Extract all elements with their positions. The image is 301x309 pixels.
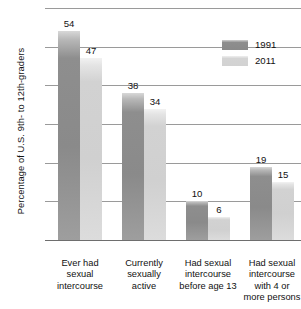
bar-fill	[122, 93, 144, 240]
x-category-label-3: Had sexual intercourse with 4 or more pe…	[237, 258, 301, 304]
bar-2011-before-age-13: 6	[208, 217, 230, 240]
bar-1991-ever-had-sexual-intercourse: 54	[58, 31, 80, 240]
legend-label-1991: 1991	[255, 39, 276, 50]
bar-2011-ever-had-sexual-intercourse: 47	[80, 58, 102, 240]
bar-chart: Percentage of U.S. 9th- to 12th-graders …	[0, 0, 301, 309]
cat-line: more persons	[237, 292, 301, 303]
cat-line: sexual	[47, 269, 113, 280]
cat-line: Had sexual	[173, 258, 243, 269]
cat-line: active	[111, 281, 177, 292]
cat-line: intercourse	[237, 269, 301, 280]
y-axis-title: Percentage of U.S. 9th- to 12th-graders	[16, 26, 26, 236]
bar-value-label: 38	[128, 80, 139, 91]
bar-1991-four-or-more-persons: 19	[250, 167, 272, 241]
legend-swatch-2011	[222, 56, 248, 66]
bar-value-label: 19	[256, 154, 267, 165]
bar-fill	[272, 182, 294, 240]
legend-item-2011: 2011	[222, 54, 292, 67]
bar-2011-four-or-more-persons: 15	[272, 182, 294, 240]
legend-label-2011: 2011	[255, 55, 276, 66]
x-category-label-0: Ever had sexual intercourse	[47, 258, 113, 292]
bar-fill	[208, 217, 230, 240]
gridline-60	[45, 8, 301, 9]
cat-line: Currently	[111, 258, 177, 269]
cat-line: Had sexual	[237, 258, 301, 269]
legend: 1991 2011	[222, 38, 292, 70]
bar-value-label: 10	[192, 188, 203, 199]
cat-line: with 4 or	[237, 281, 301, 292]
gridline-0	[45, 240, 301, 241]
bar-fill	[58, 31, 80, 240]
cat-line: before age 13	[173, 281, 243, 292]
x-category-label-2: Had sexual intercourse before age 13	[173, 258, 243, 292]
bar-value-label: 34	[150, 96, 161, 107]
bar-value-label: 54	[64, 18, 75, 29]
cat-line: intercourse	[47, 281, 113, 292]
cat-line: Ever had	[47, 258, 113, 269]
bar-value-label: 47	[86, 45, 97, 56]
cat-line: intercourse	[173, 269, 243, 280]
bar-1991-before-age-13: 10	[186, 201, 208, 240]
plot-area: 60 50 40 30 20 10 0 54 47 38 34 10	[45, 8, 301, 240]
bar-value-label: 6	[216, 204, 221, 215]
bar-value-label: 15	[278, 169, 289, 180]
x-category-label-1: Currently sexually active	[111, 258, 177, 292]
bar-fill	[80, 58, 102, 240]
bar-fill	[144, 109, 166, 241]
bar-fill	[250, 167, 272, 241]
legend-swatch-1991	[222, 40, 248, 50]
bar-1991-currently-sexually-active: 38	[122, 93, 144, 240]
legend-item-1991: 1991	[222, 38, 292, 51]
bar-2011-currently-sexually-active: 34	[144, 109, 166, 241]
bar-fill	[186, 201, 208, 240]
cat-line: sexually	[111, 269, 177, 280]
